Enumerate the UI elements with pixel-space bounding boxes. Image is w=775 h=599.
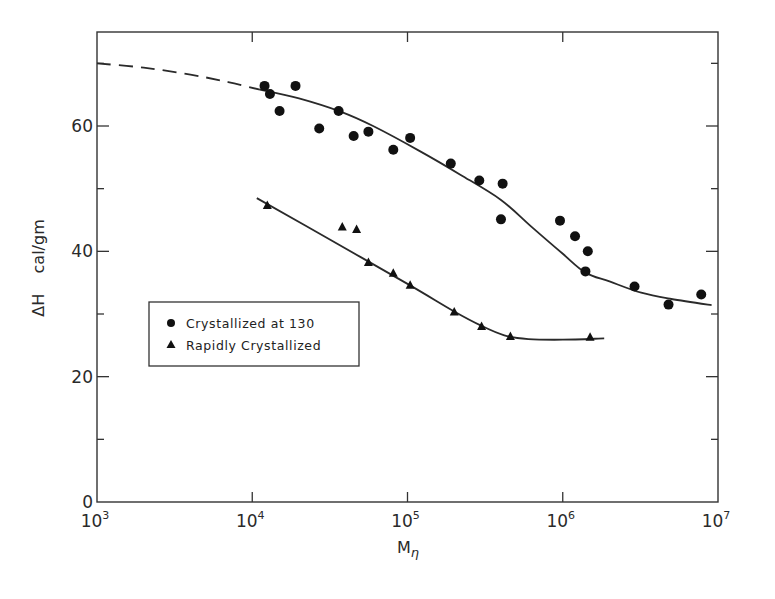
x-tick-label-exponent: 5 — [413, 509, 420, 522]
x-tick-label-base: 10 — [391, 511, 413, 531]
data-point-circle — [555, 216, 565, 226]
y-tick-label: 40 — [71, 241, 93, 261]
x-axis-label-subscript: η — [411, 545, 419, 560]
series-0-extrapolation-dashed — [97, 63, 260, 89]
x-tick-label: 106 — [546, 509, 575, 531]
data-point-circle — [498, 179, 508, 189]
data-point-circle — [291, 81, 301, 91]
data-point-triangle — [352, 224, 361, 233]
data-point-circle — [388, 145, 398, 155]
data-point-circle — [334, 106, 344, 116]
data-point-circle — [405, 133, 415, 143]
series-0-fit-curve — [260, 90, 712, 306]
axis-ticks — [97, 32, 718, 502]
chart: 103104105106107 0204060 Mη ΔH cal/gm Cry… — [0, 0, 775, 599]
legend-label-rapidly: Rapidly Crystallized — [186, 338, 321, 353]
x-tick-label-exponent: 4 — [258, 509, 265, 522]
plot-frame — [97, 32, 718, 502]
y-tick-label: 0 — [82, 492, 93, 512]
data-point-triangle — [477, 322, 486, 331]
data-point-circle — [474, 176, 484, 186]
data-point-triangle — [389, 268, 398, 277]
x-tick-label: 107 — [702, 509, 731, 531]
data-point-circle — [260, 81, 270, 91]
data-point-circle — [580, 266, 590, 276]
x-tick-label: 105 — [391, 509, 420, 531]
data-point-triangle — [586, 332, 595, 341]
data-point-circle — [664, 300, 674, 310]
data-point-circle — [265, 89, 275, 99]
y-tick-label: 20 — [71, 367, 93, 387]
data-point-circle — [275, 106, 285, 116]
legend: Crystallized at 130 Rapidly Crystallized — [149, 302, 359, 366]
data-point-circle — [446, 159, 456, 169]
x-tick-label-exponent: 7 — [723, 509, 730, 522]
data-point-triangle — [450, 307, 459, 316]
y-axis-label: ΔH cal/gm — [29, 219, 48, 317]
legend-label-crystallized: Crystallized at 130 — [186, 316, 315, 331]
x-tick-labels: 103104105106107 — [81, 509, 731, 531]
data-point-circle — [583, 246, 593, 256]
x-tick-label-base: 10 — [236, 511, 258, 531]
data-point-triangle — [338, 222, 347, 231]
x-tick-label: 104 — [236, 509, 265, 531]
data-point-circle — [496, 214, 506, 224]
x-tick-label: 103 — [81, 509, 110, 531]
data-point-circle — [349, 131, 359, 141]
data-point-circle — [570, 231, 580, 241]
x-tick-label-base: 10 — [546, 511, 568, 531]
legend-marker-circle — [167, 319, 175, 327]
data-point-circle — [696, 290, 706, 300]
x-tick-label-base: 10 — [702, 511, 724, 531]
data-point-circle — [630, 281, 640, 291]
x-axis-label-text: M — [397, 538, 411, 557]
x-tick-label-exponent: 3 — [102, 509, 109, 522]
data-point-circle — [314, 124, 324, 134]
data-point-circle — [363, 127, 373, 137]
legend-box — [149, 302, 359, 366]
x-axis-label: Mη — [397, 538, 419, 560]
fit-curves — [97, 63, 712, 339]
x-tick-label-exponent: 6 — [568, 509, 575, 522]
y-tick-labels: 0204060 — [71, 116, 93, 512]
x-tick-label-base: 10 — [81, 511, 103, 531]
y-tick-label: 60 — [71, 116, 93, 136]
